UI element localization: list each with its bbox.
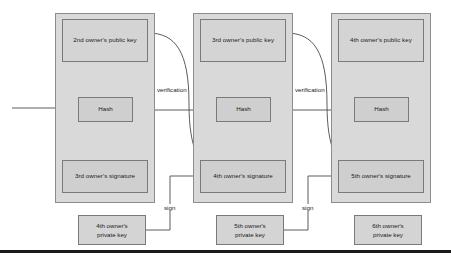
diagram-canvas: 2nd owner's public key Hash 3rd owner's … [0,0,451,262]
private-key-3-line2: private key [372,230,403,239]
private-key-1-line2: private key [96,230,127,239]
public-key-box-2: 3rd owner's public key [200,19,286,62]
signature-box-3: 5th owner's signature [338,160,424,193]
public-key-box-3: 4th owner's public key [338,19,424,62]
private-key-1-line1: 4th owner's [96,221,127,230]
signature-box-2: 4th owner's signature [200,160,286,193]
sign-label-1: sign [163,204,176,211]
bottom-divider [0,250,451,253]
public-key-box-1: 2nd owner's public key [62,19,148,62]
private-key-3-line1: 6th owner's [372,221,403,230]
private-key-box-3: 6th owner's private key [354,215,422,245]
private-key-box-2: 5th owner's private key [216,215,284,245]
hash-box-2: Hash [216,97,271,122]
hash-box-3: Hash [354,97,409,122]
signature-box-1: 3rd owner's signature [62,160,148,193]
private-key-box-1: 4th owner's private key [78,215,146,245]
hash-box-1: Hash [78,97,133,122]
verification-label-1: verification [156,86,188,93]
verification-label-2: verification [294,86,326,93]
private-key-2-line1: 5th owner's [234,221,265,230]
private-key-2-line2: private key [234,230,265,239]
sign-label-2: sign [301,204,314,211]
